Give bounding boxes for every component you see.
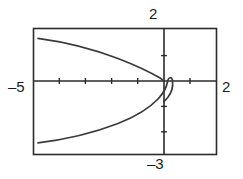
window-label-x-max: 2 <box>222 79 230 94</box>
window-label-x-min: –5 <box>8 79 25 94</box>
plot-frame <box>34 29 217 155</box>
graph-figure: 2 –3 –5 2 <box>0 0 243 179</box>
plot-canvas <box>0 0 243 179</box>
window-label-y-min: –3 <box>147 156 164 171</box>
window-label-y-max: 2 <box>149 6 157 21</box>
